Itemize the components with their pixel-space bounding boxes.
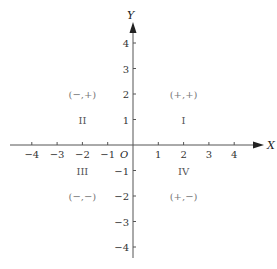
quadrant-label-IV: IV <box>178 166 190 177</box>
quadrant-label-III: III <box>76 166 88 177</box>
quadrant-label-II: II <box>78 115 86 126</box>
x-axis-label: X <box>266 139 276 152</box>
x-tick-label: 2 <box>180 149 186 160</box>
y-tick-label: −2 <box>114 191 129 202</box>
x-axis-arrow-icon <box>253 142 264 149</box>
y-tick-label: −1 <box>114 166 129 177</box>
y-tick-label: 4 <box>123 38 129 49</box>
y-tick-label: −4 <box>114 242 129 253</box>
x-tick-label: −1 <box>100 149 115 160</box>
y-tick-label: 1 <box>123 115 129 126</box>
origin-label: O <box>120 149 128 160</box>
y-axis-arrow-icon <box>130 22 137 33</box>
y-tick-label: 3 <box>123 64 129 75</box>
x-tick-label: 3 <box>206 149 212 160</box>
x-tick-label: −3 <box>50 149 65 160</box>
x-tick-label: 1 <box>155 149 161 160</box>
y-tick-label: 2 <box>123 89 129 100</box>
y-tick-label: −3 <box>114 217 129 228</box>
x-tick-label: −4 <box>24 149 39 160</box>
quadrant-signs-IV: (+,−) <box>170 191 198 202</box>
coordinate-plane: X Y O −4−3−2−11234−4−3−2−11234 I(+,+)II(… <box>0 0 277 269</box>
quadrant-signs-III: (−,−) <box>69 191 97 202</box>
quadrant-signs-I: (+,+) <box>170 89 198 100</box>
quadrant-label-I: I <box>182 115 186 126</box>
x-tick-label: 4 <box>231 149 237 160</box>
y-axis-label: Y <box>127 9 136 22</box>
quadrant-signs-II: (−,+) <box>69 89 97 100</box>
x-tick-label: −2 <box>75 149 90 160</box>
